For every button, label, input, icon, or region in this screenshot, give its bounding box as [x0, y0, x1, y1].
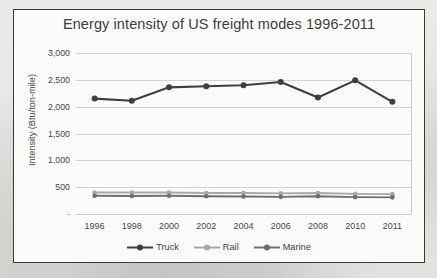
data-point-marine	[130, 194, 135, 199]
legend-item-truck[interactable]: Truck	[127, 242, 179, 252]
legend-marker-rail	[194, 243, 220, 252]
chart-legend: TruckRailMarine	[14, 242, 424, 252]
gridline	[76, 214, 411, 215]
data-point-truck	[241, 82, 247, 88]
x-axis-tick-label: 2000	[159, 221, 179, 231]
legend-label: Rail	[223, 242, 239, 252]
data-point-truck	[129, 98, 135, 104]
y-axis-tick-label: 2,000	[48, 102, 70, 112]
data-point-marine	[204, 194, 209, 199]
data-point-marine	[316, 194, 321, 199]
data-series	[76, 53, 411, 214]
y-axis-title: Intensity (Btu/ton-mile)	[27, 55, 37, 185]
x-axis-tick-label: 2008	[308, 221, 328, 231]
legend-label: Marine	[283, 242, 311, 252]
y-axis-tick-label: -	[67, 209, 70, 219]
data-point-truck	[92, 96, 98, 102]
x-axis-tick-label: 2004	[233, 221, 253, 231]
data-point-truck	[278, 79, 284, 85]
data-point-truck	[315, 95, 321, 101]
y-axis-tick-label: 1,500	[48, 129, 70, 139]
data-point-truck	[166, 84, 172, 90]
data-point-marine	[353, 195, 358, 200]
data-point-marine	[241, 194, 246, 199]
x-axis-tick-label: 2011	[383, 221, 402, 231]
legend-item-rail[interactable]: Rail	[194, 242, 239, 252]
data-point-marine	[278, 195, 283, 200]
y-axis-tick-label: 500	[55, 182, 70, 192]
x-axis-tick-label: 1996	[85, 221, 105, 231]
x-axis-tick-label: 2006	[271, 221, 291, 231]
legend-label: Truck	[156, 242, 179, 252]
legend-marker-marine	[254, 243, 280, 252]
data-point-marine	[390, 195, 395, 200]
plot-area: -5001,0001,5002,0002,5003,000 1996199820…	[76, 53, 411, 214]
chart-figure: Energy intensity of US freight modes 199…	[14, 10, 424, 262]
y-axis-tick-label: 1,000	[48, 155, 70, 165]
x-axis-tick-label: 2010	[345, 221, 365, 231]
data-point-marine	[92, 193, 97, 198]
data-point-truck	[203, 83, 209, 89]
data-point-marine	[167, 193, 172, 198]
chart-frame: Energy intensity of US freight modes 199…	[13, 9, 425, 263]
x-axis-tick-label: 2002	[196, 221, 216, 231]
chart-title: Energy intensity of US freight modes 199…	[14, 16, 424, 32]
y-axis-line-right	[411, 53, 412, 214]
y-axis-tick-label: 3,000	[48, 48, 70, 58]
legend-marker-truck	[127, 243, 153, 252]
x-axis-tick-label: 1998	[122, 221, 142, 231]
legend-item-marine[interactable]: Marine	[254, 242, 311, 252]
data-point-truck	[389, 99, 395, 105]
data-point-truck	[352, 77, 358, 83]
y-axis-tick-label: 2,500	[48, 75, 70, 85]
